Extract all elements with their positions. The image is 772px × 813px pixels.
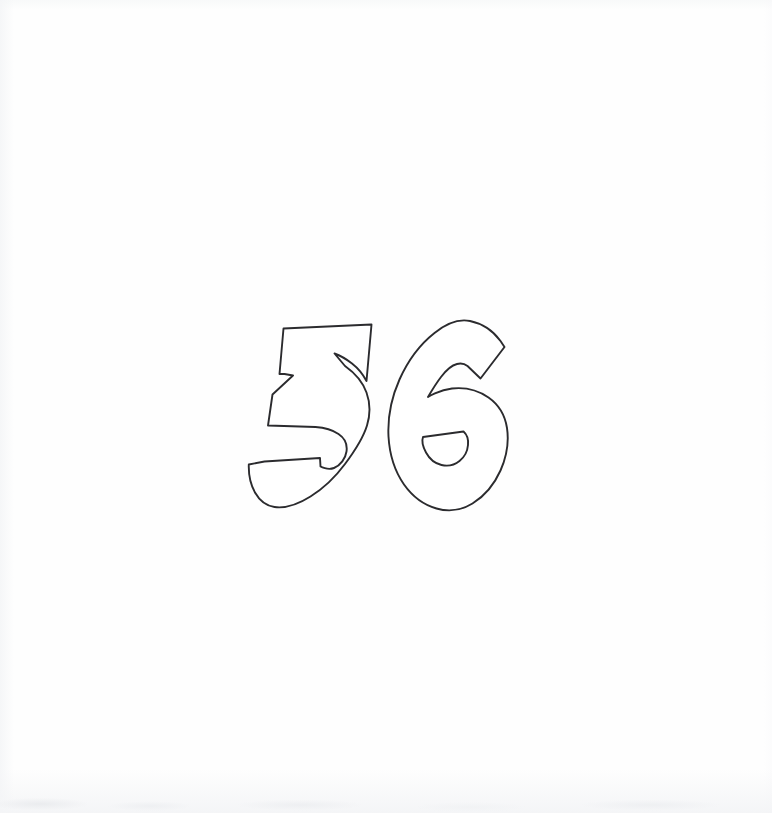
digit-6-group — [388, 320, 507, 510]
scanned-page: 36 36 Coloring-page style outline of the… — [0, 0, 772, 813]
digit-6-outline — [388, 320, 507, 510]
number-36-outline-artwork: 36 — [0, 0, 772, 813]
digit-3-group — [249, 325, 372, 508]
digit-3-outline — [249, 325, 372, 508]
